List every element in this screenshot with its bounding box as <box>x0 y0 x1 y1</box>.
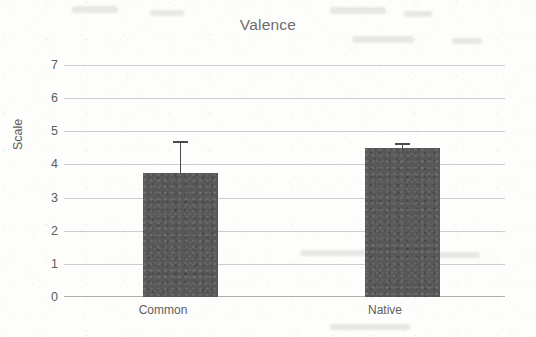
gridline-5 <box>64 131 505 132</box>
scan-smudge <box>330 7 386 14</box>
y-tick-label: 5 <box>32 125 58 138</box>
y-tick-label: 2 <box>32 225 58 238</box>
error-bar-cap-common-top <box>173 141 188 143</box>
gridline-6 <box>64 98 505 99</box>
y-tick-label: 6 <box>32 92 58 105</box>
error-bar-native <box>402 143 403 155</box>
y-tick-label: 0 <box>32 291 58 304</box>
chart-title: Valence <box>0 16 536 34</box>
y-tick-label: 7 <box>32 59 58 72</box>
bar-common <box>143 173 218 297</box>
scan-smudge <box>330 324 410 330</box>
y-tick-label: 1 <box>32 258 58 271</box>
scan-smudge <box>452 38 482 44</box>
error-bar-cap-native-top <box>395 143 410 145</box>
gridline-7 <box>64 65 505 66</box>
y-axis-label: Scale <box>11 119 25 150</box>
scan-smudge <box>72 6 118 13</box>
y-tick-label: 3 <box>32 192 58 205</box>
bar-native <box>365 148 440 297</box>
error-bar-common <box>180 141 181 173</box>
scan-smudge <box>352 36 414 43</box>
y-tick-label: 4 <box>32 158 58 171</box>
plot-area <box>64 65 505 297</box>
x-tick-label-common: Common <box>123 304 203 316</box>
x-tick-label-native: Native <box>345 304 425 316</box>
chart-screenshot: Valence Scale 7 6 5 4 3 2 1 0 Common Nat… <box>0 0 536 337</box>
